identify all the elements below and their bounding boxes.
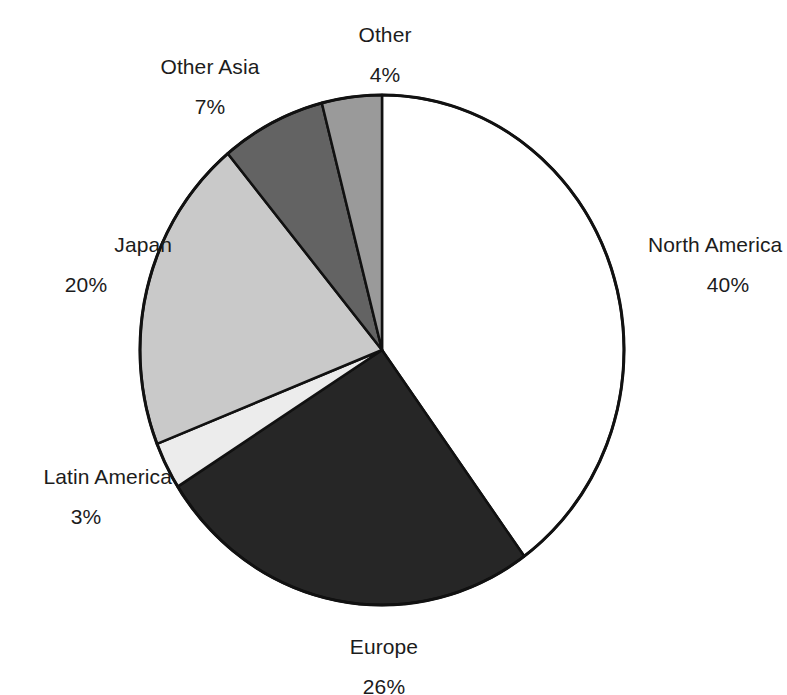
slice-label-north-america-name: North America <box>648 230 787 260</box>
slice-label-other-asia: Other Asia 7% <box>100 52 320 122</box>
slice-label-north-america: North America 40% <box>648 230 787 300</box>
slice-label-japan: Japan 20% <box>0 230 172 300</box>
slice-label-latin-america-name: Latin America <box>0 462 172 492</box>
slice-label-europe: Europe 26% <box>286 632 482 695</box>
slice-label-japan-name: Japan <box>0 230 172 260</box>
slice-label-other-asia-name: Other Asia <box>100 52 320 82</box>
slice-label-europe-name: Europe <box>286 632 482 662</box>
slice-label-europe-value: 26% <box>286 672 482 695</box>
slice-label-latin-america-value: 3% <box>0 502 172 532</box>
slice-label-latin-america: Latin America 3% <box>0 462 172 532</box>
slice-label-japan-value: 20% <box>0 270 172 300</box>
slice-label-north-america-value: 40% <box>648 270 787 300</box>
slice-label-other-value: 4% <box>292 60 478 90</box>
slice-label-other: Other 4% <box>292 20 478 90</box>
slice-label-other-name: Other <box>292 20 478 50</box>
pie-slice-group <box>140 95 624 605</box>
slice-label-other-asia-value: 7% <box>100 92 320 122</box>
